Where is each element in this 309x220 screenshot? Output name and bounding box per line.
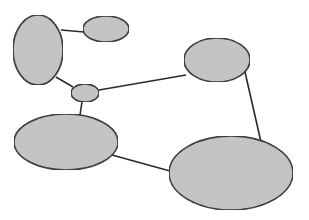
node-D: [71, 84, 99, 102]
edge-D-C: [99, 75, 186, 90]
edge-A-D: [56, 77, 73, 87]
network-diagram: [0, 0, 309, 220]
node-B: [83, 16, 129, 42]
edge-D-E: [80, 102, 82, 115]
edge-E-F: [112, 155, 170, 171]
node-A: [13, 15, 63, 85]
node-E: [14, 114, 118, 170]
edge-A-B: [61, 30, 84, 32]
node-C: [184, 38, 250, 82]
node-F: [169, 136, 293, 210]
nodes: [13, 15, 293, 210]
edge-C-F: [245, 72, 261, 142]
